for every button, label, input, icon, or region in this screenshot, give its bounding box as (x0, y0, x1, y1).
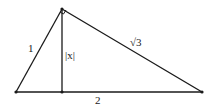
triangle-diagram: 1 |x| √3 2 (0, 0, 214, 110)
vertex-left (14, 90, 17, 93)
label-base: 2 (95, 94, 101, 106)
side-left (16, 9, 62, 92)
vertex-right (200, 90, 203, 93)
vertex-foot (60, 90, 63, 93)
label-altitude: |x| (65, 49, 75, 61)
label-left-side: 1 (28, 42, 34, 54)
side-right (62, 9, 202, 92)
vertex-apex (60, 7, 63, 10)
label-right-side: √3 (130, 36, 142, 48)
